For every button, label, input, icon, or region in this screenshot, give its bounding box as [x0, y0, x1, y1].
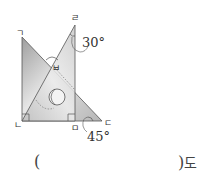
answer-blank[interactable] — [50, 154, 190, 172]
label-nieun: ㄴ — [14, 120, 22, 130]
label-mieum: ㅁ — [71, 123, 79, 133]
answer-line: ( )도 — [30, 152, 205, 174]
label-digeut: ㄷ — [104, 118, 112, 128]
unit-label: 도 — [184, 155, 197, 171]
label-rieul: ㄹ — [71, 13, 79, 23]
angle-label-45: 45° — [87, 129, 110, 144]
angle-label-30: 30° — [82, 35, 105, 50]
hole-circle — [49, 89, 65, 105]
open-paren: ( — [34, 152, 40, 171]
label-giyeok: ㄱ — [16, 28, 24, 38]
close-paren: )도 — [178, 152, 197, 172]
label-bieup: ㅂ — [52, 63, 60, 73]
set-squares-diagram: ㄱ ㄴ ㄷ ㄹ ㅁ ㅂ 30° 45° — [0, 0, 210, 150]
